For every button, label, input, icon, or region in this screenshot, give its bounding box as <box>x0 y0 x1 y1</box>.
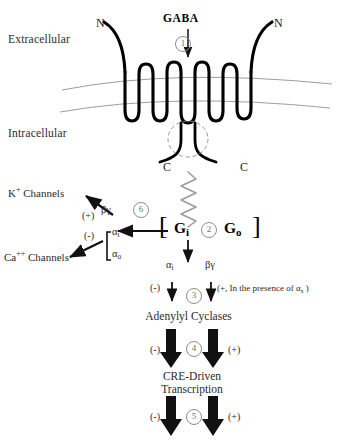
extracellular-label: Extracellular <box>8 34 70 46</box>
cre-line-1: CRE-Driven <box>142 370 242 383</box>
cre-line-2: Transcription <box>142 383 242 396</box>
cascade-betagamma-label: βγ <box>205 260 215 271</box>
cyclase-positive-sign: (+) <box>228 345 240 355</box>
cre-transcription-label: CRE-Driven Transcription <box>142 370 242 396</box>
alpha-o-mediator-label: αo <box>112 249 121 260</box>
betagamma-note-text: (+, In the presence of α <box>217 283 301 293</box>
betagamma-cyclase-note: (+, In the presence of αs ) <box>217 284 309 293</box>
step-badge-6: 6 <box>133 202 149 218</box>
cascade-alpha-i-symbol: α <box>166 259 172 270</box>
alpha-o-symbol: α <box>112 248 118 259</box>
c-tail-left <box>160 123 181 162</box>
gprotein-bracket-open: [ <box>159 213 168 239</box>
cre-output-arrow-positive <box>202 396 224 436</box>
alpha-o-subscript: o <box>118 252 122 261</box>
alpha-i-mediator-label: αi <box>112 227 120 238</box>
n-terminus-tail-right <box>251 22 272 72</box>
alpha-to-calcium-arrow <box>70 241 103 257</box>
cyclase-to-cre-arrow-negative <box>160 329 182 368</box>
n-terminus-right-label: N <box>274 17 283 29</box>
betagamma-potassium-mediator-label: βγ <box>101 205 111 216</box>
alpha-i-symbol: α <box>112 226 118 237</box>
membrane-outer-line <box>62 77 332 90</box>
potassium-channels-label: K+ Channels <box>8 186 64 199</box>
gprotein-gi-label: Gi <box>174 220 189 236</box>
adenylyl-cyclases-label: Adenylyl Cyclases <box>136 311 241 323</box>
c-tail-right <box>195 123 216 162</box>
gi-subscript: i <box>186 226 189 238</box>
potassium-suffix: Channels <box>20 187 64 199</box>
gprotein-go-label: Go <box>224 220 242 236</box>
alphai-cyclase-sign: (-) <box>150 283 160 293</box>
gprotein-bracket-close: ] <box>252 213 261 239</box>
calcium-effect-sign: (-) <box>84 231 94 241</box>
step-badge-1: 1 <box>175 36 191 52</box>
calcium-symbol: Ca <box>4 251 16 263</box>
step-badge-3: 3 <box>186 288 202 304</box>
cascade-alpha-i-label: αi <box>166 260 174 271</box>
potassium-effect-sign: (+) <box>82 211 94 221</box>
betagamma-note-close: ) <box>304 283 309 293</box>
calcium-suffix: Channels <box>25 251 69 263</box>
potassium-symbol: K <box>8 187 16 199</box>
step-badge-5: 5 <box>186 409 202 425</box>
alpha-subunit-bracket <box>107 232 111 260</box>
calcium-channels-label: Ca++ Channels <box>4 250 69 263</box>
cascade-alpha-i-subscript: i <box>172 263 174 272</box>
pathway-diagram: Extracellular Intracellular GABA N N C C… <box>0 0 348 448</box>
calcium-charge: ++ <box>16 249 25 258</box>
c-terminus-left-label: C <box>163 161 171 173</box>
go-symbol: G <box>224 219 236 236</box>
cre-positive-sign: (+) <box>228 412 240 422</box>
cre-output-arrow-negative <box>160 396 182 436</box>
cyclase-to-cre-arrow-positive <box>202 329 224 368</box>
n-terminus-tail-left <box>104 22 125 72</box>
coupling-domain-highlight <box>168 121 208 157</box>
cre-negative-sign: (-) <box>150 412 160 422</box>
go-subscript: o <box>236 226 242 238</box>
betagamma-note-subscript: s <box>301 287 304 295</box>
gaba-ligand-label: GABA <box>163 13 199 25</box>
step-badge-2: 2 <box>201 222 217 238</box>
step-badge-4: 4 <box>186 341 202 357</box>
cyclase-negative-sign: (-) <box>150 345 160 355</box>
intracellular-label: Intracellular <box>8 128 67 140</box>
c-terminus-right-label: C <box>240 161 248 173</box>
gi-symbol: G <box>174 219 186 236</box>
n-terminus-left-label: N <box>96 17 105 29</box>
alpha-i-subscript: i <box>118 230 120 239</box>
